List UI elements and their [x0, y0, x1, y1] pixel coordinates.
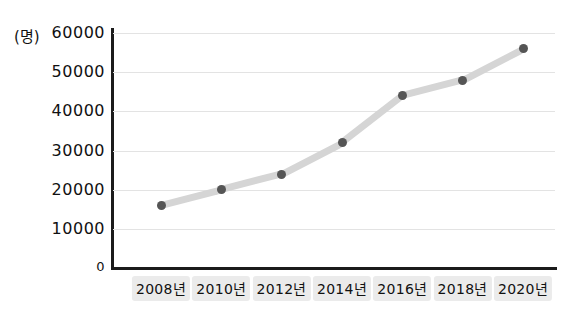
x-axis-tick-label: 2008년	[132, 276, 190, 301]
y-axis-tick-label: 40000	[0, 101, 105, 120]
x-axis-tick-label: 2018년	[434, 276, 492, 301]
y-axis-tick-label: 20000	[0, 180, 105, 199]
x-axis-tick-label: 2010년	[192, 276, 250, 301]
x-axis-tick-label: 2012년	[253, 276, 311, 301]
y-axis-tick-label: 0	[0, 259, 105, 274]
y-axis-tick-label: 60000	[0, 23, 105, 42]
x-axis-tick-label: 2016년	[373, 276, 431, 301]
line-chart: (명) 0100002000030000400005000060000 2008…	[0, 0, 576, 314]
y-axis-tick-label: 50000	[0, 62, 105, 81]
y-axis-tick-labels: 0100002000030000400005000060000	[0, 0, 576, 314]
y-axis-tick-label: 10000	[0, 219, 105, 238]
y-axis-tick-label: 30000	[0, 141, 105, 160]
x-axis-tick-label: 2014년	[313, 276, 371, 301]
x-axis-tick-label: 2020년	[494, 276, 552, 301]
